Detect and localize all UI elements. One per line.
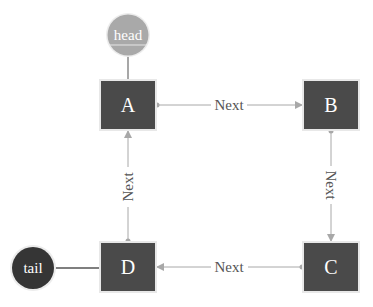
- edge-label-c-d: Next: [214, 259, 244, 275]
- edge-label-a-b: Next: [214, 97, 244, 113]
- edge-label-b-c: Next: [323, 170, 339, 200]
- node-b-label: B: [324, 94, 337, 116]
- edge-b-to-c: Next: [323, 129, 339, 242]
- node-a-label: A: [121, 94, 136, 116]
- edge-a-to-b: Next: [155, 97, 303, 113]
- edge-c-to-d: Next: [157, 259, 305, 275]
- edge-label-d-a: Next: [120, 172, 136, 202]
- node-d[interactable]: D: [99, 241, 157, 293]
- edge-d-to-a: Next: [120, 131, 136, 244]
- tail-label: tail: [23, 260, 42, 276]
- node-c-label: C: [324, 256, 337, 278]
- linked-list-diagram: Next Next Next Next head tail A: [0, 0, 373, 307]
- node-d-label: D: [121, 256, 135, 278]
- head-pointer[interactable]: head: [106, 13, 150, 57]
- node-a[interactable]: A: [99, 79, 157, 131]
- node-c[interactable]: C: [302, 241, 360, 293]
- node-b[interactable]: B: [302, 79, 360, 131]
- head-label: head: [114, 27, 143, 43]
- tail-pointer[interactable]: tail: [10, 245, 56, 291]
